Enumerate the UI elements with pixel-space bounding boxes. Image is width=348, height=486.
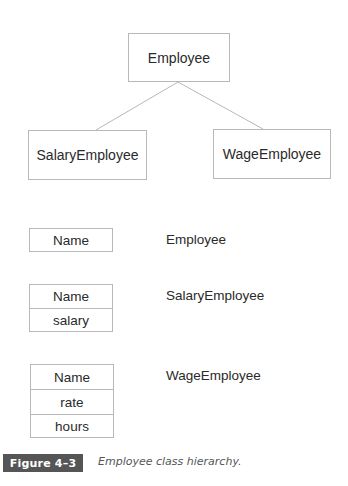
record-salaryemployee: Name salary [29,284,113,332]
class-box-salaryemployee: SalaryEmployee [28,130,147,180]
class-name: SalaryEmployee [37,147,139,163]
class-box-wageemployee: WageEmployee [213,129,331,179]
field-cell: Name [30,285,112,309]
figure-label: Figure 4–3 [3,454,83,472]
field-cell: hours [31,415,113,437]
figure-caption: Employee class hierarchy. [98,455,242,468]
class-name: Employee [148,50,210,66]
connector-employee-to-salaryemployee [96,82,178,130]
field-cell: rate [31,390,113,415]
field-cell: salary [30,309,112,331]
record-wageemployee: Name rate hours [30,364,114,438]
field-cell: Name [31,365,113,390]
class-name: WageEmployee [223,146,321,162]
record-label-employee: Employee [166,232,226,247]
field-cell: Name [30,229,112,251]
class-box-employee: Employee [128,33,230,82]
record-employee: Name [29,228,113,252]
record-label-salaryemployee: SalaryEmployee [166,288,264,303]
connector-employee-to-wageemployee [178,82,263,129]
record-label-wageemployee: WageEmployee [166,368,261,383]
